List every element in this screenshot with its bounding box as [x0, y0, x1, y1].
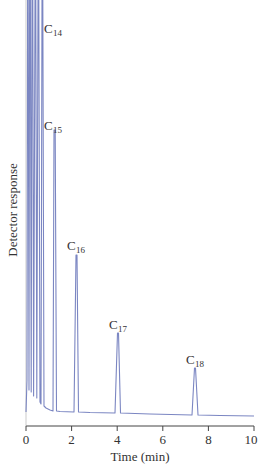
svg-text:C: C [186, 352, 195, 367]
x-axis [26, 0, 254, 431]
peak-label-c15: C 15 [44, 118, 63, 135]
y-axis-title: Detector response [5, 163, 20, 257]
peak-label-c17: C 17 [109, 317, 128, 334]
svg-text:17: 17 [118, 324, 128, 334]
peak-label-c14: C 14 [44, 21, 63, 38]
svg-text:16: 16 [76, 245, 86, 255]
svg-text:C: C [67, 238, 76, 253]
svg-text:18: 18 [195, 359, 205, 369]
svg-text:C: C [44, 118, 53, 133]
x-tick-4: 4 [114, 432, 121, 447]
peak-label-c18: C 18 [186, 352, 205, 369]
chromatogram-trace [26, 0, 254, 416]
svg-text:14: 14 [53, 28, 63, 38]
x-tick-0: 0 [23, 432, 30, 447]
svg-text:C: C [44, 21, 53, 36]
x-tick-10: 10 [245, 432, 258, 447]
chromatogram-chart: Detector response 0 2 4 6 8 10 Time (min… [0, 0, 265, 469]
peak-label-c16: C 16 [67, 238, 86, 255]
x-tick-2: 2 [68, 432, 75, 447]
svg-text:15: 15 [53, 125, 63, 135]
x-axis-title: Time (min) [110, 449, 169, 464]
x-tick-6: 6 [160, 432, 167, 447]
x-tick-8: 8 [205, 432, 212, 447]
svg-text:C: C [109, 317, 118, 332]
x-tick-labels: 0 2 4 6 8 10 [23, 432, 258, 447]
